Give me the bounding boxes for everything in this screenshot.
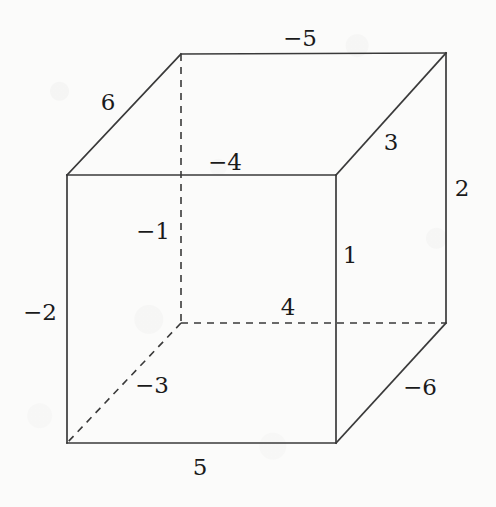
label-3: 3 bbox=[384, 131, 399, 154]
label-6: 6 bbox=[101, 91, 116, 114]
label-neg-5: −5 bbox=[283, 27, 317, 50]
label-neg-4: −4 bbox=[208, 151, 242, 174]
edge-top-left-diagonal bbox=[67, 54, 181, 175]
label-5: 5 bbox=[193, 456, 208, 479]
label-neg-6: −6 bbox=[403, 376, 437, 399]
label-2: 2 bbox=[455, 177, 470, 200]
label-neg-1: −1 bbox=[136, 220, 170, 243]
label-neg-3: −3 bbox=[135, 374, 169, 397]
label-4: 4 bbox=[281, 296, 296, 319]
label-neg-2: −2 bbox=[23, 301, 57, 324]
cube-figure-page: −5 6 3 −4 2 −1 1 4 −2 −3 −6 5 bbox=[0, 0, 496, 507]
edge-top-right-diagonal bbox=[336, 53, 446, 175]
label-1: 1 bbox=[343, 244, 358, 267]
edge-back-top bbox=[181, 53, 446, 54]
cube-wireframe bbox=[0, 0, 496, 507]
